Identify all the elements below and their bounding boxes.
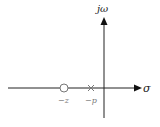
imaginary-axis-arrowhead [101,17,108,25]
zero-label: −z [58,96,70,105]
zero-marker [60,84,68,92]
real-axis-arrowhead [134,85,142,92]
s-plane-diagram: jω σ −z −p [0,0,160,127]
pole-label: −p [85,96,97,105]
real-axis-label: σ [143,82,151,95]
imaginary-axis-label: jω [95,3,108,14]
